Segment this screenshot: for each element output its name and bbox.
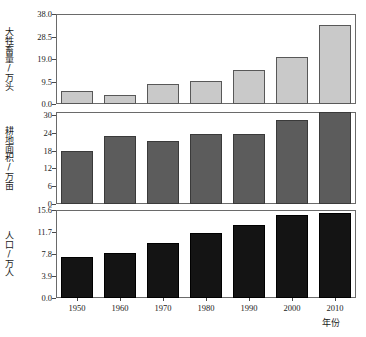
bar-population-2000 [276,215,308,298]
x-tick-mark-1980 [206,298,207,301]
bar-population-1950 [61,257,93,298]
bar-farmland-1960 [104,136,136,204]
bar-livestock-2010 [319,25,351,104]
y-tick-mark-livestock-4 [52,14,56,15]
y-tick-label-population-0: 0.0 [41,293,52,303]
bar-farmland-2000 [276,120,308,204]
y-tick-mark-farmland-5 [52,115,56,116]
y-tick-label-population-3: 11.7 [37,227,52,237]
x-tick-label-1980: 1980 [198,303,215,313]
bar-livestock-1980 [190,81,222,104]
y-tick-mark-farmland-3 [52,151,56,152]
y-tick-label-population-2: 7.8 [41,249,52,259]
y-axis-title-population: 人口/万人 [4,210,13,298]
bar-farmland-1980 [190,134,222,204]
x-tick-label-2010: 2010 [327,303,344,313]
x-tick-mark-1990 [249,298,250,301]
y-tick-label-livestock-1: 9.5 [41,77,52,87]
y-tick-label-livestock-3: 28.5 [37,32,52,42]
stacked-bar-chart-figure: 0.09.519.028.538.0大牲畜量/万头0612182430耕地面积/… [0,0,366,337]
y-tick-mark-population-3 [52,232,56,233]
y-tick-label-farmland-2: 12 [44,163,53,173]
x-tick-label-1950: 1950 [69,303,86,313]
bar-livestock-1970 [147,84,179,104]
bar-farmland-2010 [319,112,351,204]
y-axis-title-livestock: 大牲畜量/万头 [4,14,13,104]
y-tick-mark-population-0 [52,298,56,299]
y-tick-mark-farmland-1 [52,186,56,187]
y-tick-label-farmland-3: 18 [44,146,53,156]
bar-farmland-1950 [61,151,93,204]
y-tick-label-livestock-2: 19.0 [37,54,52,64]
bar-livestock-1960 [104,95,136,104]
bar-population-1970 [147,243,179,298]
y-tick-label-farmland-5: 30 [44,110,53,120]
bar-population-2010 [319,213,351,298]
bar-farmland-1990 [233,134,265,204]
y-tick-mark-livestock-1 [52,82,56,83]
y-tick-label-livestock-0: 0.0 [41,99,52,109]
y-tick-mark-farmland-4 [52,133,56,134]
y-tick-mark-farmland-2 [52,168,56,169]
y-tick-label-farmland-4: 24 [44,128,53,138]
y-tick-mark-livestock-2 [52,59,56,60]
bar-population-1960 [104,253,136,298]
y-tick-mark-farmland-0 [52,204,56,205]
y-tick-label-population-1: 3.9 [41,271,52,281]
bar-livestock-1950 [61,91,93,104]
x-tick-label-1970: 1970 [155,303,172,313]
y-tick-mark-population-4 [52,210,56,211]
x-tick-label-1990: 1990 [241,303,258,313]
bar-population-1990 [233,225,265,298]
x-axis-title: 年份 [322,316,340,329]
x-tick-mark-1950 [77,298,78,301]
x-tick-mark-1970 [163,298,164,301]
y-tick-mark-population-1 [52,276,56,277]
x-tick-mark-2000 [292,298,293,301]
x-tick-label-2000: 2000 [284,303,301,313]
bar-farmland-1970 [147,141,179,204]
x-tick-label-1960: 1960 [112,303,129,313]
y-tick-mark-population-2 [52,254,56,255]
y-tick-label-livestock-4: 38.0 [37,9,52,19]
x-tick-mark-2010 [335,298,336,301]
y-tick-label-population-4: 15.6 [37,205,52,215]
bar-livestock-1990 [233,70,265,104]
bar-livestock-2000 [276,57,308,104]
x-tick-mark-1960 [120,298,121,301]
bar-population-1980 [190,233,222,298]
y-tick-mark-livestock-0 [52,104,56,105]
y-axis-title-farmland: 耕地面积/万亩 [4,112,13,204]
y-tick-mark-livestock-3 [52,37,56,38]
